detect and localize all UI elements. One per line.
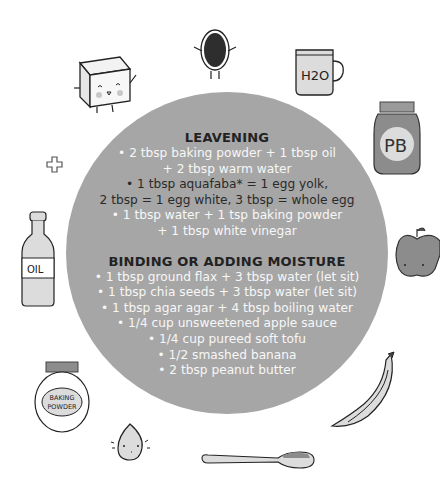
mug-label: H2O xyxy=(301,68,329,83)
leavening-line: • 1 tbsp aquafaba* = 1 egg yolk, xyxy=(66,177,388,193)
banana-icon xyxy=(328,350,398,430)
plus-icon xyxy=(45,155,65,175)
baking-powder-jar-icon: BAKING POWDER xyxy=(32,360,92,435)
leavening-line: + 2 tbsp warm water xyxy=(66,162,388,178)
leavening-line: • 2 tbsp baking powder + 1 tbsp oil xyxy=(66,146,388,162)
seed-character-icon xyxy=(190,25,240,87)
section-title-leavening: LEAVENING xyxy=(66,130,388,146)
substitutions-content: LEAVENING • 2 tbsp baking powder + 1 tbs… xyxy=(66,92,388,379)
jar-label: PB xyxy=(384,135,407,156)
binding-line: • 1/4 cup pureed soft tofu xyxy=(66,332,388,348)
bottle-label: OIL xyxy=(27,264,44,275)
leavening-line: + 1 tbsp white vinegar xyxy=(66,224,388,240)
peanut-butter-jar-icon: PB xyxy=(370,100,430,180)
tofu-block-icon xyxy=(72,55,142,115)
water-droplet-icon xyxy=(108,422,158,464)
powder-label-1: BAKING xyxy=(50,394,75,402)
section-title-binding: BINDING OR ADDING MOISTURE xyxy=(66,254,388,270)
binding-line: • 1 tbsp agar agar + 4 tbsp boiling wate… xyxy=(66,301,388,317)
leavening-line: 2 tbsp = 1 egg white, 3 tbsp = whole egg xyxy=(66,193,388,209)
spoon-icon xyxy=(200,448,320,473)
apple-icon xyxy=(395,225,440,280)
binding-line: • 1/4 cup unsweetened apple sauce xyxy=(66,316,388,332)
binding-line: • 1 tbsp chia seeds + 3 tbsp water (let … xyxy=(66,285,388,301)
leavening-line: • 1 tbsp water + 1 tsp baking powder xyxy=(66,208,388,224)
binding-line: • 1 tbsp ground flax + 3 tbsp water (let… xyxy=(66,270,388,286)
oil-bottle-icon: OIL xyxy=(18,210,58,310)
water-mug-icon: H2O xyxy=(293,45,353,100)
powder-label-2: POWDER xyxy=(47,403,77,411)
